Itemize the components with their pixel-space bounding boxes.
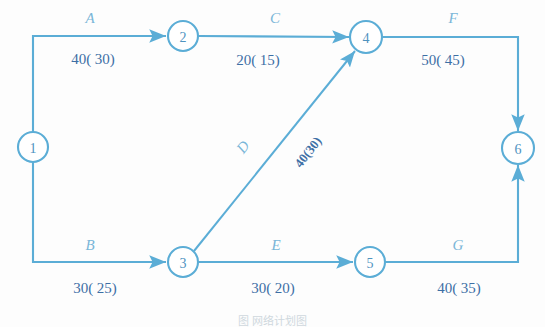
network-diagram: A 40( 30) C 20( 15) F 50( 45) B 30( 25) … bbox=[0, 0, 545, 327]
node-2[interactable]: 2 bbox=[168, 21, 198, 51]
node-4[interactable]: 4 bbox=[350, 21, 382, 53]
edge-F: F 50( 45) bbox=[381, 10, 518, 131]
edge-G: G 40( 35) bbox=[385, 165, 518, 297]
edge-F-letter: F bbox=[447, 10, 458, 26]
edge-A-letter: A bbox=[84, 10, 95, 26]
edge-B-line bbox=[33, 162, 166, 262]
edge-A: A 40( 30) bbox=[33, 10, 166, 133]
edge-D-value: 40(30) bbox=[291, 134, 324, 171]
edge-D-letter: D bbox=[233, 138, 253, 157]
edge-C-letter: C bbox=[270, 10, 281, 26]
node-5-label: 5 bbox=[367, 256, 374, 271]
edge-B-letter: B bbox=[85, 237, 94, 253]
edge-C: C 20( 15) bbox=[198, 10, 349, 69]
edge-E: E 30( 20) bbox=[198, 237, 353, 297]
edge-B-value: 30( 25) bbox=[73, 280, 117, 297]
edge-C-line bbox=[198, 36, 349, 37]
node-6[interactable]: 6 bbox=[502, 132, 534, 164]
node-5[interactable]: 5 bbox=[355, 247, 385, 277]
edge-E-letter: E bbox=[270, 237, 280, 253]
edge-G-line bbox=[385, 165, 518, 262]
edge-E-value: 30( 20) bbox=[251, 280, 295, 297]
figure-canvas: A 40( 30) C 20( 15) F 50( 45) B 30( 25) … bbox=[0, 0, 545, 327]
edge-B: B 30( 25) bbox=[33, 162, 166, 297]
edge-C-value: 20( 15) bbox=[236, 52, 280, 69]
edge-F-value: 50( 45) bbox=[421, 52, 465, 69]
edge-G-value: 40( 35) bbox=[437, 280, 481, 297]
edge-D-line bbox=[194, 51, 355, 251]
node-3-label: 3 bbox=[180, 256, 187, 271]
node-3[interactable]: 3 bbox=[168, 247, 198, 277]
edge-A-value: 40( 30) bbox=[71, 51, 115, 68]
node-1-label: 1 bbox=[30, 141, 37, 156]
figure-caption: 图 网络计划图 bbox=[0, 315, 545, 327]
node-2-label: 2 bbox=[180, 30, 187, 45]
edge-D: D 40(30) bbox=[194, 51, 355, 251]
edge-G-letter: G bbox=[453, 237, 464, 253]
node-4-label: 4 bbox=[363, 31, 370, 46]
node-1[interactable]: 1 bbox=[18, 132, 48, 162]
node-6-label: 6 bbox=[515, 142, 522, 157]
